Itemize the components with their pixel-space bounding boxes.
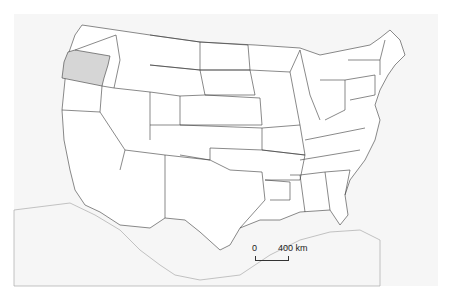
scale-bar-line	[255, 256, 289, 261]
us-outline	[62, 25, 405, 250]
scale-zero-label: 0	[252, 243, 257, 253]
us-map	[0, 0, 450, 302]
scale-distance-label: 400 km	[278, 243, 308, 253]
